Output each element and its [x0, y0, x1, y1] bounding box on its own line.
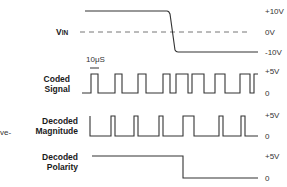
coded-signal-label-line2: Signal	[44, 84, 70, 94]
coded-signal-level-high: +5V	[265, 67, 280, 76]
coded-signal-waveform	[82, 74, 258, 93]
edge-text-fragment: ve-	[0, 128, 11, 137]
vin-level-high: +10V	[265, 7, 285, 16]
decoded-magnitude-level-high: +5V	[265, 111, 280, 120]
timing-diagram: ve- VIN +10V 0V -10V 10μS Coded Signal +…	[0, 0, 287, 187]
decoded-polarity-level-low: 0	[265, 174, 270, 183]
decoded-polarity-level-high: +5V	[265, 152, 280, 161]
decoded-magnitude-waveform	[90, 116, 258, 136]
coded-signal-label-line1: Coded	[44, 74, 70, 84]
vin-label-subscript: IN	[62, 29, 69, 36]
vin-level-low: -10V	[265, 48, 283, 57]
vin-label: VIN	[56, 27, 68, 37]
coded-signal-level-low: 0	[265, 89, 270, 98]
decoded-polarity-label-line2: Polarity	[47, 162, 78, 172]
decoded-magnitude-label-line2: Magnitude	[36, 126, 79, 136]
decoded-polarity-waveform	[92, 156, 258, 178]
decoded-magnitude-label-line1: Decoded	[42, 116, 78, 126]
vin-level-zero: 0V	[265, 28, 275, 37]
decoded-polarity-label-line1: Decoded	[42, 152, 78, 162]
vin-waveform	[85, 11, 258, 52]
time-marker-label: 10μS	[86, 55, 105, 64]
decoded-magnitude-level-low: 0	[265, 132, 270, 141]
